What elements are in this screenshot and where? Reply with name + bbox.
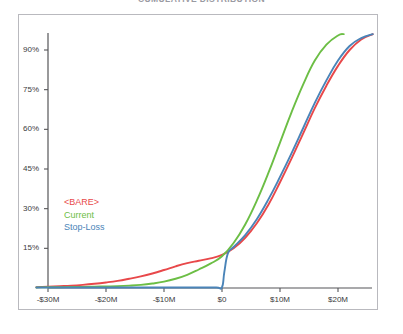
x-axis-tick-label: -$30M	[26, 295, 70, 304]
y-axis-tick-label: 45%	[9, 164, 39, 173]
y-axis-tick-label: 75%	[9, 85, 39, 94]
x-axis-tick-label: $20M	[316, 295, 360, 304]
series-line-stop-loss	[36, 34, 372, 289]
x-axis-tick-label: $10M	[258, 295, 302, 304]
y-axis-tick-label: 15%	[9, 243, 39, 252]
plot-canvas	[0, 0, 403, 334]
x-axis-tick-label: -$10M	[142, 295, 186, 304]
series-line-current	[36, 34, 343, 287]
x-axis-tick-label: $0	[200, 295, 244, 304]
series-group	[36, 34, 372, 289]
x-axis-tick-label: -$20M	[84, 295, 128, 304]
series-line-bare	[36, 34, 372, 287]
legend-item-current: Current	[64, 209, 105, 222]
y-axis-tick-label: 30%	[9, 204, 39, 213]
y-axis-tick-label: 60%	[9, 124, 39, 133]
chart-legend: <BARE> Current Stop-Loss	[64, 196, 105, 234]
axes-group	[44, 33, 372, 292]
y-axis-tick-label: 90%	[9, 45, 39, 54]
legend-item-bare: <BARE>	[64, 196, 105, 209]
legend-item-stop-loss: Stop-Loss	[64, 221, 105, 234]
